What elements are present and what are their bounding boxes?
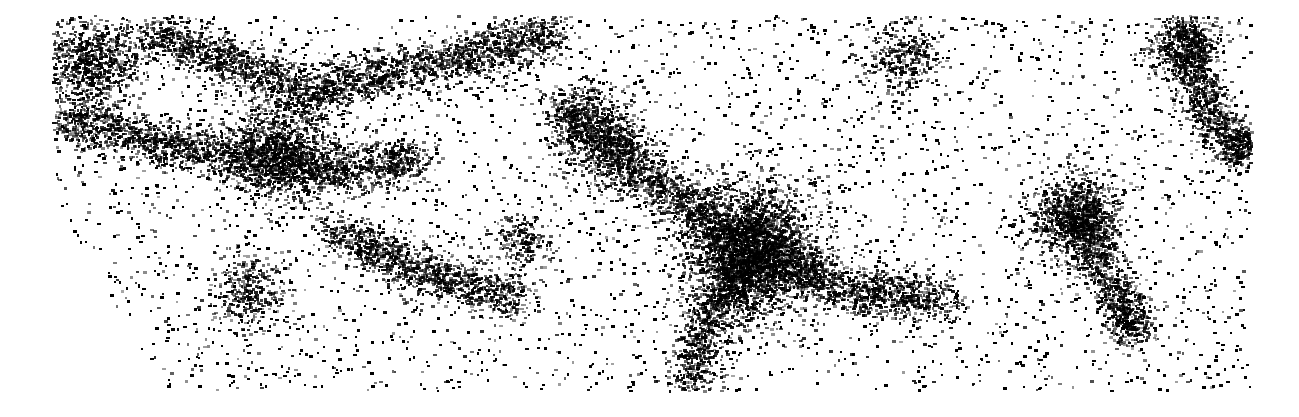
galaxy-scatter-field — [0, 0, 1299, 417]
